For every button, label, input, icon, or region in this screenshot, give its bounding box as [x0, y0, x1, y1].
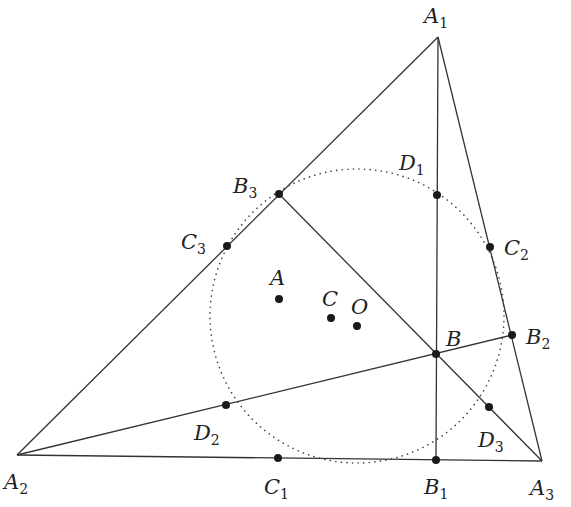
label-subscript: 1 — [439, 15, 448, 31]
label-a: A — [268, 266, 285, 290]
label-main: A — [2, 470, 19, 494]
label-main: B — [525, 325, 541, 349]
point-d2 — [222, 401, 230, 409]
label-a1: A1 — [422, 4, 448, 31]
point-d3 — [485, 403, 493, 411]
label-c1: C1 — [264, 475, 289, 502]
triangle-diagram: A1A2A3BB1B2B3C1C2C3D1D2D3ACO — [0, 0, 571, 507]
label-main: D — [398, 151, 416, 175]
label-main: C — [504, 236, 520, 260]
label-subscript: 1 — [416, 162, 425, 178]
label-main: C — [322, 287, 338, 311]
label-b2: B2 — [525, 325, 550, 352]
label-main: O — [351, 295, 368, 319]
point-o — [353, 322, 361, 330]
segment-a1-b1 — [436, 37, 438, 460]
point-a — [275, 295, 283, 303]
label-b3: B3 — [232, 174, 257, 201]
point-d1 — [433, 191, 441, 199]
label-a2: A2 — [2, 470, 28, 497]
label-main: A — [268, 266, 285, 290]
point-b2 — [508, 331, 516, 339]
label-subscript: 1 — [280, 486, 289, 502]
label-subscript: 2 — [211, 432, 220, 448]
label-main: D — [193, 421, 211, 445]
point-c3 — [223, 242, 231, 250]
label-subscript: 2 — [520, 247, 529, 263]
point-b3 — [275, 190, 283, 198]
label-c3: C3 — [181, 230, 206, 257]
label-main: A — [422, 4, 439, 28]
point-c2 — [486, 243, 494, 251]
label-subscript: 2 — [19, 481, 28, 497]
label-main: A — [528, 476, 545, 500]
point-c — [327, 314, 335, 322]
label-d2: D2 — [193, 421, 220, 448]
label-subscript: 3 — [545, 487, 554, 503]
label-c2: C2 — [504, 236, 529, 263]
label-main: C — [264, 475, 280, 499]
label-subscript: 2 — [541, 336, 550, 352]
label-main: D — [477, 428, 495, 452]
label-subscript: 3 — [197, 241, 206, 257]
label-subscript: 3 — [248, 185, 257, 201]
lines-layer — [17, 37, 542, 461]
label-main: C — [181, 230, 197, 254]
label-main: B — [232, 174, 248, 198]
label-main: B — [445, 327, 461, 351]
label-b1: B1 — [423, 475, 448, 502]
label-d3: D3 — [477, 428, 504, 455]
segment-a3-b3 — [279, 194, 542, 461]
label-a3: A3 — [528, 476, 554, 503]
label-subscript: 3 — [495, 439, 504, 455]
label-b: B — [445, 327, 461, 351]
label-main: B — [423, 475, 439, 499]
labels-layer: A1A2A3BB1B2B3C1C2C3D1D2D3ACO — [2, 4, 554, 503]
point-b — [432, 350, 440, 358]
label-d1: D1 — [398, 151, 425, 178]
label-c: C — [322, 287, 338, 311]
point-c1 — [274, 454, 282, 462]
point-b1 — [432, 456, 440, 464]
label-subscript: 1 — [439, 486, 448, 502]
points-layer — [222, 190, 516, 464]
label-o: O — [351, 295, 368, 319]
